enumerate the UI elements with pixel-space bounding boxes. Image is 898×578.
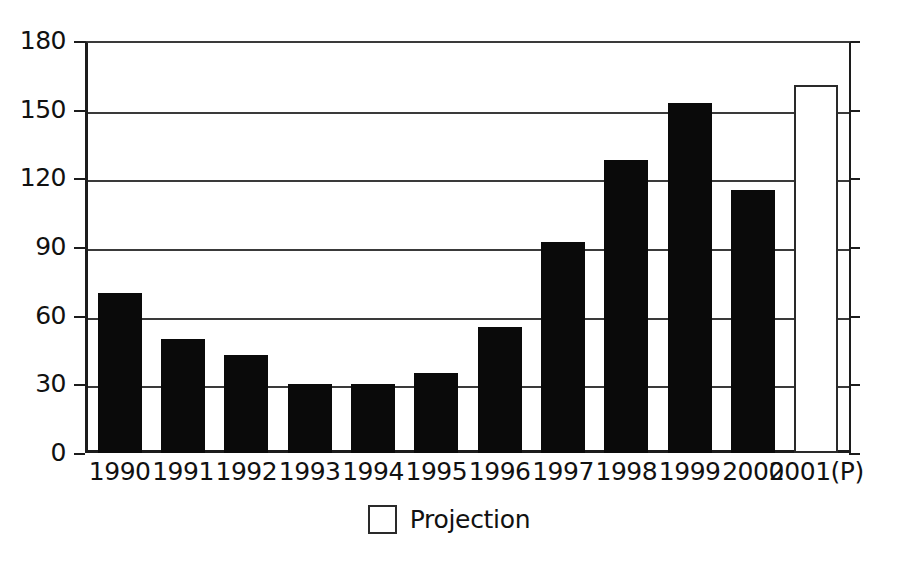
- bar-slot: [794, 41, 838, 453]
- bar-slot: [478, 41, 522, 453]
- bar-slot: [351, 41, 395, 453]
- y-axis-tick-label: 30: [8, 371, 66, 396]
- y-axis-tick-mark: [74, 41, 85, 43]
- bar-series: [88, 41, 848, 453]
- x-axis-tick-label: 2001(P): [761, 458, 871, 486]
- bar-slot: [541, 41, 585, 453]
- bar: [668, 103, 712, 453]
- bar-slot: [224, 41, 268, 453]
- bar-slot: [288, 41, 332, 453]
- bar: [478, 327, 522, 453]
- y-axis-tick-mark: [74, 316, 85, 318]
- bar: [98, 293, 142, 453]
- chart-legend: Projection: [0, 505, 898, 534]
- y-axis-tick-label: 60: [8, 303, 66, 328]
- y-axis-tick-mark-right: [849, 453, 860, 455]
- x-axis-labels: 1990199119921993199419951996199719981999…: [0, 458, 898, 498]
- y-axis-tick-label: 90: [8, 234, 66, 259]
- y-axis-tick-label: 180: [8, 28, 66, 53]
- y-axis-tick-label: 120: [8, 165, 66, 190]
- y-axis-tick-mark: [74, 110, 85, 112]
- bar: [414, 373, 458, 453]
- bar-slot: [731, 41, 775, 453]
- legend-label: Projection: [410, 507, 531, 532]
- bar-slot: [98, 41, 142, 453]
- bar-slot: [668, 41, 712, 453]
- legend-swatch-icon: [368, 505, 397, 534]
- bar: [224, 355, 268, 453]
- bar-projection: [794, 85, 838, 454]
- y-axis-tick-label: 150: [8, 97, 66, 122]
- bar: [604, 160, 648, 453]
- bar: [731, 190, 775, 453]
- y-axis-tick-mark: [74, 178, 85, 180]
- bar: [161, 339, 205, 453]
- y-axis-tick-mark: [74, 384, 85, 386]
- bar-slot: [604, 41, 648, 453]
- bar-slot: [161, 41, 205, 453]
- bar: [541, 242, 585, 453]
- bar-slot: [414, 41, 458, 453]
- y-axis-tick-mark: [74, 453, 85, 455]
- y-axis-tick-mark: [74, 247, 85, 249]
- bar: [351, 384, 395, 453]
- bar: [288, 384, 332, 453]
- bar-chart: 1801501209060300 19901991199219931994199…: [0, 0, 898, 578]
